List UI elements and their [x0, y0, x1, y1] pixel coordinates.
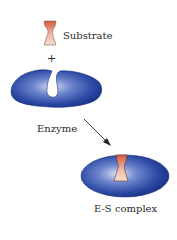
- es-complex-label: E-S complex: [94, 203, 157, 214]
- substrate-label: Substrate: [63, 30, 113, 41]
- substrate-shape: [44, 21, 56, 45]
- enzyme-label: Enzyme: [37, 123, 77, 134]
- es-complex-shape: [81, 155, 169, 197]
- enzyme-shape: [11, 70, 102, 107]
- reaction-arrow: [84, 119, 111, 146]
- plus-sign: +: [47, 52, 56, 65]
